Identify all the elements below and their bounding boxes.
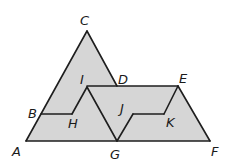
label-e: E [179,71,188,86]
label-d: D [118,72,128,87]
label-a: A [11,144,21,159]
label-g: G [110,147,120,162]
geometry-diagram: C I D E B H J K A G F [0,0,230,167]
label-i: I [80,72,84,87]
label-k: K [166,115,176,130]
label-f: F [211,144,219,159]
label-h: H [68,116,78,131]
label-b: B [28,106,37,121]
label-c: C [80,13,90,28]
